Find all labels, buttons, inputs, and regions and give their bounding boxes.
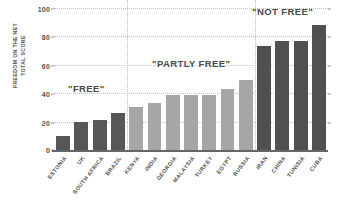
x-label-slot: CUBA bbox=[310, 154, 328, 202]
bar-egypt[interactable] bbox=[221, 89, 235, 150]
x-label-china: CHINA bbox=[270, 155, 287, 174]
bar-slot bbox=[291, 8, 309, 150]
x-label-slot: CHINA bbox=[273, 154, 291, 202]
bar-turkey[interactable] bbox=[202, 95, 216, 150]
bar-slot bbox=[91, 8, 109, 150]
x-label-india: INDIA bbox=[144, 155, 159, 172]
y-tick-mark-right bbox=[328, 122, 331, 123]
bar-slot bbox=[164, 8, 182, 150]
bar-estonia[interactable] bbox=[56, 136, 70, 150]
annotation-not-free: "NOT FREE" bbox=[252, 6, 313, 17]
bar-russia[interactable] bbox=[239, 80, 253, 150]
y-axis-title-line-2: TOTAL SCORE bbox=[19, 1, 27, 111]
bar-india[interactable] bbox=[148, 103, 162, 150]
x-label-slot: IRAN bbox=[255, 154, 273, 202]
y-tick-label: 100 bbox=[38, 6, 50, 13]
bar-malaysia[interactable] bbox=[184, 95, 198, 150]
x-label-slot: ESTONIA bbox=[54, 154, 72, 202]
bar-slot bbox=[145, 8, 163, 150]
x-axis-category-labels: ESTONIAUKSOUTH AFRICABRAZILKENYAINDIAGEO… bbox=[54, 154, 328, 202]
y-tick-label: 80 bbox=[42, 34, 50, 41]
y-tick-mark-right bbox=[328, 37, 331, 38]
bar-brazil[interactable] bbox=[111, 113, 125, 150]
y-axis-title: FREEDOM ON THE NET TOTAL SCORE bbox=[12, 1, 27, 111]
x-axis-line bbox=[52, 150, 328, 152]
bar-slot bbox=[200, 8, 218, 150]
bar-series bbox=[54, 8, 328, 150]
x-label-cuba: CUBA bbox=[308, 155, 324, 173]
bar-kenya[interactable] bbox=[129, 107, 143, 150]
annotation-partly-free: "PARTLY FREE" bbox=[152, 58, 230, 69]
bar-slot bbox=[127, 8, 145, 150]
bar-china[interactable] bbox=[275, 41, 289, 150]
bar-slot bbox=[54, 8, 72, 150]
x-label-slot: TUNISIA bbox=[291, 154, 309, 202]
bar-slot bbox=[310, 8, 328, 150]
y-tick-mark-right bbox=[328, 94, 331, 95]
x-label-slot: KENYA bbox=[127, 154, 145, 202]
bar-slot bbox=[182, 8, 200, 150]
bar-georgia[interactable] bbox=[166, 95, 180, 150]
y-axis-title-line-1: FREEDOM ON THE NET bbox=[12, 1, 20, 111]
bar-slot bbox=[218, 8, 236, 150]
y-tick-label: 0 bbox=[46, 147, 50, 154]
x-label-slot: BRAZIL bbox=[109, 154, 127, 202]
bar-iran[interactable] bbox=[257, 46, 271, 150]
bar-slot bbox=[237, 8, 255, 150]
bar-uk[interactable] bbox=[74, 122, 88, 150]
y-tick-label: 40 bbox=[42, 91, 50, 98]
x-label-estonia: ESTONIA bbox=[46, 155, 67, 180]
chart-container: FREEDOM ON THE NET TOTAL SCORE 020406080… bbox=[0, 0, 339, 203]
y-tick-mark-right bbox=[328, 65, 331, 66]
bar-slot bbox=[273, 8, 291, 150]
x-label-iran: IRAN bbox=[255, 155, 269, 171]
annotation-free: "FREE" bbox=[68, 83, 105, 94]
bar-slot bbox=[109, 8, 127, 150]
plot-area: 020406080100 bbox=[54, 8, 328, 152]
bar-slot bbox=[72, 8, 90, 150]
y-tick-label: 20 bbox=[42, 119, 50, 126]
x-label-slot: EGYPT bbox=[218, 154, 236, 202]
x-label-uk: UK bbox=[76, 155, 86, 166]
bar-cuba[interactable] bbox=[312, 25, 326, 150]
bar-south-africa[interactable] bbox=[93, 120, 107, 150]
y-tick-label: 60 bbox=[42, 62, 50, 69]
x-label-slot: SOUTH AFRICA bbox=[91, 154, 109, 202]
x-label-slot: RUSSIA bbox=[237, 154, 255, 202]
bar-slot bbox=[255, 8, 273, 150]
y-tick-mark-right bbox=[328, 9, 331, 10]
bar-tunisia[interactable] bbox=[294, 41, 308, 150]
x-label-slot: TURKEY bbox=[200, 154, 218, 202]
